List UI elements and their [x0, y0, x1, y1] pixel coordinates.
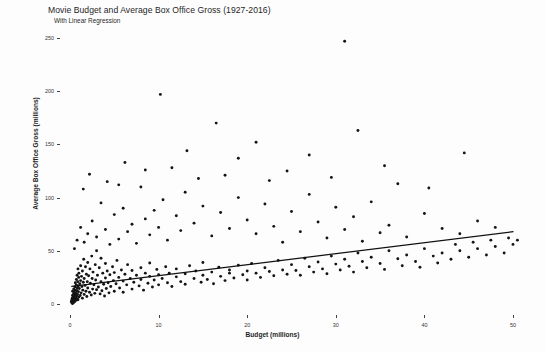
scatter-point	[90, 294, 93, 297]
scatter-point	[268, 179, 271, 182]
scatter-point	[388, 249, 391, 252]
scatter-point	[184, 283, 187, 286]
scatter-point	[401, 264, 404, 267]
scatter-point	[217, 266, 220, 269]
scatter-point	[88, 173, 91, 176]
scatter-point	[157, 283, 160, 286]
scatter-point	[485, 254, 488, 257]
scatter-point	[162, 198, 165, 201]
scatter-point	[77, 290, 80, 293]
scatter-point	[361, 240, 364, 243]
scatter-point	[138, 284, 141, 287]
scatter-point	[317, 221, 320, 224]
scatter-point	[432, 255, 435, 258]
scatter-point	[77, 276, 80, 279]
scatter-point	[120, 269, 123, 272]
scatter-point	[116, 259, 119, 262]
scatter-point	[148, 233, 151, 236]
scatter-point	[101, 272, 104, 275]
scatter-point	[139, 278, 142, 281]
scatter-point	[84, 284, 87, 287]
scatter-point	[170, 285, 173, 288]
scatter-point	[334, 206, 337, 209]
x-tick-mark	[336, 315, 337, 318]
scatter-point	[458, 232, 461, 235]
regression-line-segment	[72, 232, 513, 287]
scatter-point	[108, 273, 111, 276]
scatter-point	[82, 258, 85, 261]
scatter-point	[108, 243, 111, 246]
scatter-point	[237, 264, 240, 267]
scatter-point	[77, 298, 80, 301]
y-tick-label: 100	[30, 195, 54, 201]
scatter-point	[330, 176, 333, 179]
scatter-point	[73, 295, 76, 298]
scatter-point	[352, 215, 355, 218]
scatter-point	[131, 223, 134, 226]
scatter-point	[73, 297, 76, 300]
scatter-point	[94, 263, 97, 266]
scatter-point	[186, 149, 189, 152]
scatter-point	[454, 243, 457, 246]
scatter-point	[175, 214, 178, 217]
scatter-point	[370, 200, 373, 203]
scatter-point	[94, 279, 97, 282]
scatter-point	[494, 245, 497, 248]
scatter-point	[81, 289, 84, 292]
scatter-point	[81, 297, 84, 300]
scatter-point	[164, 265, 167, 268]
scatter-point	[166, 281, 169, 284]
scatter-point	[343, 228, 346, 231]
x-tick-label: 20	[237, 322, 257, 328]
scatter-point	[151, 286, 154, 289]
scatter-point	[272, 225, 275, 228]
scatter-point	[201, 261, 204, 264]
scatter-point	[72, 301, 75, 304]
scatter-point	[74, 281, 77, 284]
scatter-point	[476, 247, 479, 250]
scatter-point	[100, 257, 103, 260]
scatter-point	[83, 241, 86, 244]
scatter-point	[72, 296, 75, 299]
scatter-point	[95, 236, 98, 239]
scatter-point	[379, 262, 382, 265]
scatter-point	[325, 272, 328, 275]
scatter-point	[427, 187, 430, 190]
scatter-point	[210, 271, 213, 274]
scatter-point	[250, 262, 253, 265]
scatter-point	[458, 249, 461, 252]
scatter-point	[74, 289, 77, 292]
scatter-point	[85, 273, 88, 276]
scatter-point	[308, 154, 311, 157]
scatter-point	[419, 266, 422, 269]
scatter-point	[107, 281, 110, 284]
scatter-point	[92, 271, 95, 274]
scatter-point	[286, 273, 289, 276]
scatter-point	[122, 280, 125, 283]
scatter-point	[161, 277, 164, 280]
scatter-point	[83, 277, 86, 280]
scatter-point	[87, 274, 90, 277]
scatter-point	[99, 292, 102, 295]
scatter-point	[125, 283, 128, 286]
scatter-point	[246, 279, 249, 282]
scatter-point	[113, 213, 116, 216]
scatter-point	[104, 262, 107, 265]
scatter-point	[312, 271, 315, 274]
scatter-point	[104, 228, 107, 231]
scatter-point	[77, 284, 80, 287]
scatter-point	[153, 209, 156, 212]
scatter-point	[281, 241, 284, 244]
scatter-point	[126, 230, 129, 233]
scatter-point	[74, 294, 77, 297]
x-axis-label: Budget (millions)	[0, 331, 545, 338]
scatter-point	[232, 276, 235, 279]
scatter-point	[188, 264, 191, 267]
scatter-point	[357, 129, 360, 132]
scatter-point	[206, 278, 209, 281]
scatter-point	[79, 264, 82, 267]
scatter-point	[71, 297, 74, 300]
scatter-point	[76, 293, 79, 296]
scatter-point	[299, 230, 302, 233]
scatter-point	[74, 298, 77, 301]
